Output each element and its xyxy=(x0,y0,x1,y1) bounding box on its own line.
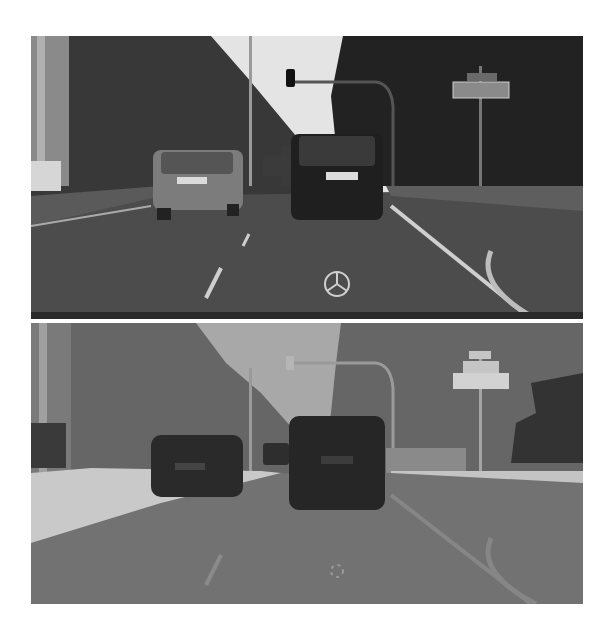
street-photo-panel xyxy=(31,36,583,319)
segmentation-panel xyxy=(31,323,583,604)
segmentation-image xyxy=(31,323,583,604)
street-photo-image xyxy=(31,36,583,319)
